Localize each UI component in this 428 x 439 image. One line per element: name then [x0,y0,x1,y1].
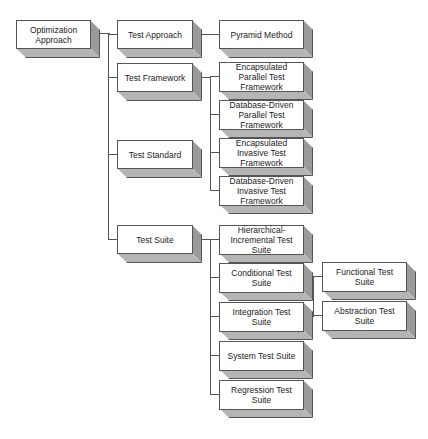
node-test-approach: Test Approach [117,20,202,58]
node-integration-test-suite: Integration Test Suite [219,302,313,340]
node-database-driven-parallel-test-framework: Database-Driven Parallel Test Framework [219,100,313,138]
node-system-test-suite: System Test Suite [219,341,313,379]
diagram-canvas: Optimization Approach Test Approach Test… [0,0,428,439]
connector [210,76,219,77]
connector [201,34,219,35]
node-regression-test-suite: Regression Test Suite [219,380,313,418]
node-database-driven-invasive-test-framework: Database-Driven Invasive Test Framework [219,176,313,214]
node-pyramid-method: Pyramid Method [219,20,313,58]
connector [210,394,219,395]
node-optimization-approach: Optimization Approach [16,20,100,58]
connector [210,316,219,317]
node-encapsulated-parallel-test-framework: Encapsulated Parallel Test Framework [219,62,313,100]
node-conditional-test-suite: Conditional Test Suite [219,263,313,301]
connector [210,190,219,191]
connector [313,315,322,316]
node-hierarchical-incremental-test-suite: Hierarchical-Incremental Test Suite [219,225,313,263]
node-test-standard: Test Standard [117,140,202,178]
connector [108,33,109,239]
connector [108,77,117,78]
connector [210,152,219,153]
connector [108,154,117,155]
connector [313,276,314,317]
connector [210,277,219,278]
connector [210,239,211,395]
connector [108,239,117,240]
node-abstraction-test-suite: Abstraction Test Suite [322,301,416,339]
connector [108,34,117,35]
node-test-suite: Test Suite [117,225,202,263]
connector [313,276,322,277]
connector [210,355,219,356]
connector [210,76,211,191]
connector [210,239,219,240]
node-functional-test-suite: Functional Test Suite [322,262,416,300]
connector [210,114,219,115]
node-test-framework: Test Framework [117,63,202,101]
node-encapsulated-invasive-test-framework: Encapsulated Invasive Test Framework [219,138,313,176]
